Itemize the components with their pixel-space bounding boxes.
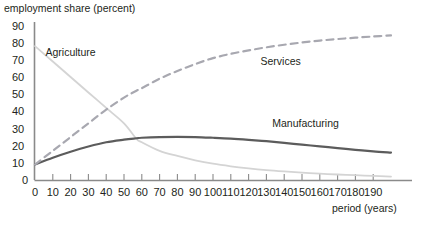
x-tick-label: 0 (32, 186, 38, 198)
series-label-agriculture: Agriculture (45, 46, 95, 58)
y-axis-title: employment share (percent) (4, 2, 135, 14)
x-tick-label: 20 (64, 186, 76, 198)
x-tick-label: 140 (275, 186, 293, 198)
x-tick-label: 90 (189, 186, 201, 198)
x-tick-label: 190 (364, 186, 382, 198)
x-tick-label: 150 (293, 186, 311, 198)
series-label-services: Services (261, 55, 301, 67)
x-tick-label: 180 (346, 186, 364, 198)
y-tick-label: 90 (12, 20, 24, 32)
x-tick-label: 30 (82, 186, 94, 198)
x-tick-label: 40 (100, 186, 112, 198)
x-tick-label: 80 (171, 186, 183, 198)
x-tick-label: 160 (311, 186, 329, 198)
y-tick-label: 40 (12, 105, 24, 117)
x-tick-label: 10 (47, 186, 59, 198)
chart-container: employment share (percent) 0102030405060… (0, 0, 424, 226)
y-tick-label: 30 (12, 123, 24, 135)
x-tick-label: 110 (222, 186, 240, 198)
x-tick-label: 130 (257, 186, 275, 198)
x-tick-label: 50 (118, 186, 130, 198)
x-axis-tick-labels: 0102030405060708090100110120130140150160… (32, 186, 382, 198)
y-tick-label: 80 (12, 37, 24, 49)
y-tick-label: 0 (22, 174, 28, 186)
x-axis-title: period (years) (332, 202, 397, 214)
y-tick-label: 50 (12, 88, 24, 100)
x-tick-label: 120 (239, 186, 257, 198)
employment-share-line-chart: employment share (percent) 0102030405060… (0, 0, 424, 226)
x-tick-label: 100 (204, 186, 222, 198)
series-line-agriculture (35, 46, 391, 176)
x-tick-label: 60 (136, 186, 148, 198)
series-annotations: AgricultureManufacturingServices (45, 46, 338, 128)
y-tick-label: 10 (12, 157, 24, 169)
y-tick-label: 70 (12, 54, 24, 66)
series-label-manufacturing: Manufacturing (272, 117, 339, 129)
y-tick-label: 60 (12, 71, 24, 83)
x-tick-label: 170 (328, 186, 346, 198)
x-tick-label: 70 (153, 186, 165, 198)
series-line-manufacturing (35, 137, 391, 165)
y-tick-label: 20 (12, 140, 24, 152)
y-axis-tick-labels: 0102030405060708090 (12, 20, 28, 187)
x-axis-tick-marks (53, 174, 373, 180)
